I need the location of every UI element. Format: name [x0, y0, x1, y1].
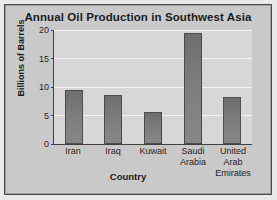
x-axis-tick-label-line: Arab	[213, 157, 253, 168]
figure-container: Annual Oil Production in Southwest Asia …	[0, 0, 277, 200]
x-axis-tick-label-line: United	[213, 146, 253, 157]
bar	[65, 90, 83, 144]
bar-slot	[133, 30, 173, 144]
x-axis-tick-label-line: Kuwait	[133, 146, 173, 157]
bar	[104, 95, 122, 144]
bar	[144, 112, 162, 144]
bar-slot	[173, 30, 213, 144]
y-axis-tick-label: 0	[44, 139, 49, 149]
bar-slot	[212, 30, 252, 144]
y-axis-tick-label: 15	[39, 54, 49, 64]
y-axis-tick-label: 10	[39, 82, 49, 92]
x-axis-tick-label-line: Emirates	[213, 168, 253, 179]
y-axis-label: Billions of Barrels	[16, 16, 26, 100]
x-axis-tick-label-line: Iraq	[93, 146, 133, 157]
y-axis-tick-label: 5	[44, 111, 49, 121]
bar-slot	[54, 30, 94, 144]
chart-title: Annual Oil Production in Southwest Asia	[5, 11, 271, 23]
bars-group	[54, 30, 252, 144]
x-axis-tick-label: UnitedArabEmirates	[213, 146, 253, 179]
bar-slot	[94, 30, 134, 144]
x-axis-tick-label-line: Saudi	[173, 146, 213, 157]
x-axis-tick-label-line: Iran	[53, 146, 93, 157]
plot-area: 05101520	[53, 30, 252, 145]
y-axis-tick-label: 20	[39, 25, 49, 35]
bar	[223, 97, 241, 144]
chart-frame: Annual Oil Production in Southwest Asia …	[4, 4, 272, 195]
x-axis-label: Country	[53, 171, 203, 182]
bar	[184, 33, 202, 144]
x-axis-tick-label-line: Arabia	[173, 157, 213, 168]
